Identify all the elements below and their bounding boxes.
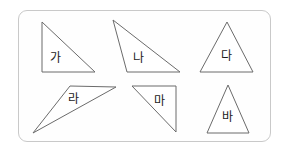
triangle-label-da: 다	[221, 50, 232, 62]
triangle-label-ma: 마	[154, 95, 165, 107]
triangle-label-ba: 바	[222, 111, 233, 123]
triangle-label-ga: 가	[50, 52, 61, 64]
worksheet-canvas: 가 나 다 라 마 바	[0, 0, 287, 151]
triangle-ba[interactable]	[207, 85, 249, 133]
figures-group	[0, 0, 287, 151]
triangle-ma[interactable]	[132, 86, 176, 132]
triangle-label-na: 나	[133, 52, 144, 64]
triangle-na[interactable]	[113, 20, 180, 72]
triangle-da[interactable]	[200, 22, 253, 72]
triangle-label-ra: 라	[68, 93, 79, 105]
